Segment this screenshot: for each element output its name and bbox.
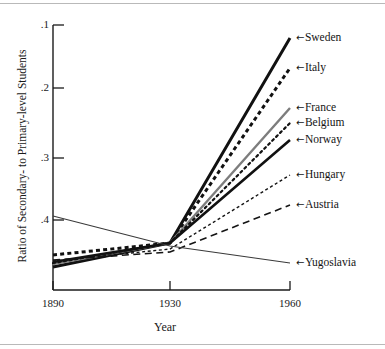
x-tick-label-1930: 1930 (148, 298, 192, 309)
series-label-text: Hungary (305, 168, 345, 180)
series-label-france: ←France (296, 101, 336, 114)
x-axis-title: Year (0, 320, 330, 335)
y-tick-label-2: .3 (27, 152, 49, 163)
axes (53, 25, 290, 290)
series-label-austria: ←Austria (296, 198, 339, 211)
x-axis-ticks (53, 281, 290, 290)
y-tick-label-3: .4 (27, 214, 49, 225)
series-label-text: Yugoslavia (305, 256, 356, 268)
series-label-belgium: ←Belgium (296, 116, 345, 129)
x-tick-label-1890: 1890 (31, 298, 75, 309)
left-arrow-icon: ← (296, 257, 305, 268)
series-label-yugoslavia: ←Yugoslavia (296, 256, 356, 269)
left-arrow-icon: ← (296, 134, 305, 145)
series-line-austria (53, 205, 290, 260)
series-label-text: Belgium (305, 116, 345, 128)
y-axis-title: Ratio of Secondary- to Primary-level Stu… (16, 41, 28, 271)
series-label-text: Austria (305, 198, 339, 210)
series-label-text: Italy (305, 61, 326, 73)
series-label-text: Norway (305, 133, 342, 145)
figure-container: .1 .2 .3 .4 1890 1930 1960 Ratio of Seco… (0, 0, 385, 349)
series-label-text: Sweden (305, 31, 341, 43)
y-axis-ticks (53, 25, 64, 220)
left-arrow-icon: ← (296, 117, 305, 128)
x-tick-label-1960: 1960 (268, 298, 312, 309)
series-line-sweden (53, 38, 290, 267)
left-arrow-icon: ← (296, 102, 305, 113)
y-tick-label-0: .1 (27, 19, 49, 30)
series-lines (53, 38, 290, 267)
series-line-hungary (53, 175, 290, 261)
series-label-sweden: ←Sweden (296, 31, 341, 44)
y-tick-label-1: .2 (27, 82, 49, 93)
left-arrow-icon: ← (296, 169, 305, 180)
series-label-text: France (305, 101, 336, 113)
left-arrow-icon: ← (296, 199, 305, 210)
series-label-italy: ←Italy (296, 61, 326, 74)
left-arrow-icon: ← (296, 62, 305, 73)
series-label-hungary: ←Hungary (296, 168, 345, 181)
series-label-norway: ←Norway (296, 133, 342, 146)
left-arrow-icon: ← (296, 32, 305, 43)
